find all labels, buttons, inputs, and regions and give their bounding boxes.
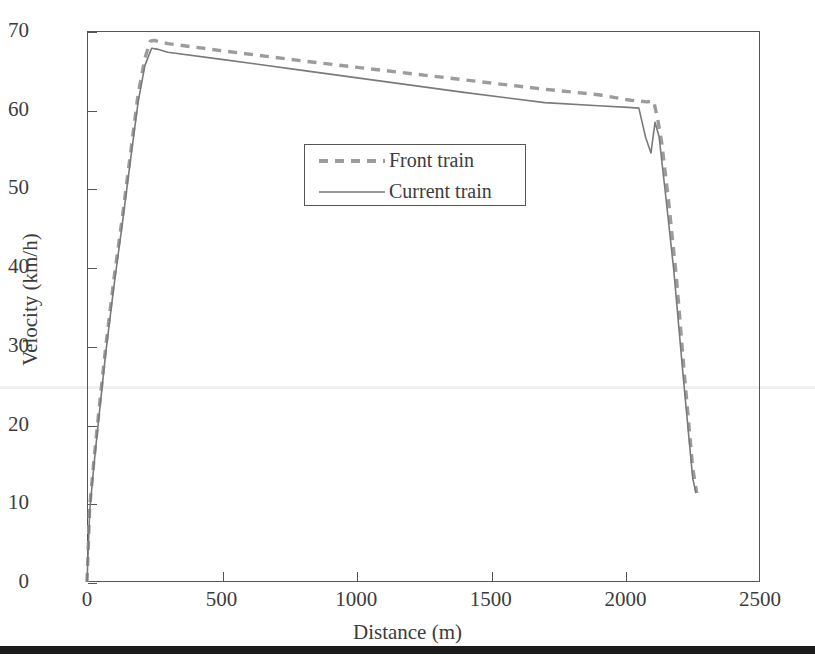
x-tick-label: 500 bbox=[162, 589, 282, 610]
chart-data-canvas bbox=[87, 31, 760, 582]
y-tick-label: 10 bbox=[8, 492, 29, 513]
y-tick-label: 70 bbox=[8, 20, 29, 41]
x-tick-label: 2500 bbox=[700, 589, 815, 610]
legend-entry-front-train[interactable]: Front train bbox=[305, 145, 525, 176]
y-tick-label: 30 bbox=[8, 335, 29, 356]
x-tick-label: 0 bbox=[27, 589, 147, 610]
velocity-distance-figure: Velocity (km/h) 010203040506070050010001… bbox=[0, 0, 815, 671]
legend-label-current-train: Current train bbox=[389, 180, 492, 203]
x-tick-label: 1000 bbox=[296, 589, 416, 610]
page-bottom-rule bbox=[0, 646, 815, 654]
y-tick-label: 50 bbox=[8, 177, 29, 198]
y-axis-title: Velocity (km/h) bbox=[18, 175, 43, 425]
legend-label-front-train: Front train bbox=[389, 149, 474, 172]
dashed-line-swatch bbox=[315, 156, 389, 166]
x-axis-title: Distance (m) bbox=[0, 620, 815, 645]
series-line-front-train bbox=[87, 40, 697, 582]
legend-entry-current-train[interactable]: Current train bbox=[305, 176, 525, 207]
chart-legend[interactable]: Front train Current train bbox=[304, 144, 526, 206]
series-line-current-train bbox=[87, 48, 696, 582]
x-tick-label: 2000 bbox=[565, 589, 685, 610]
y-tick-label: 60 bbox=[8, 99, 29, 120]
y-tick-label: 20 bbox=[8, 414, 29, 435]
y-tick-mark bbox=[88, 583, 97, 584]
y-tick-label: 40 bbox=[8, 256, 29, 277]
solid-line-swatch bbox=[315, 187, 389, 197]
x-tick-label: 1500 bbox=[431, 589, 551, 610]
